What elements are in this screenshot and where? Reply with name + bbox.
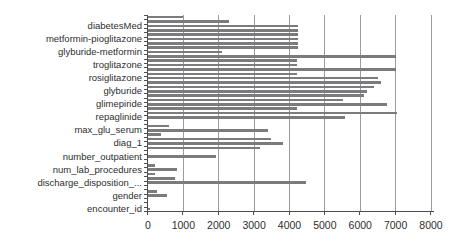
bar [148,59,297,62]
y-axis-line [147,15,148,211]
y-axis-tick [144,181,147,182]
y-axis-tick [144,133,147,134]
x-axis-tick [253,212,254,215]
y-axis-tick [144,24,147,25]
y-axis-tick [144,89,147,90]
y-axis-tick [144,102,147,103]
x-axis-tick [430,212,431,215]
bar [148,208,150,211]
y-axis-tick [144,167,147,168]
x-axis-tick [395,212,396,215]
x-tick-label: 0 [145,219,151,231]
y-axis-tick [144,85,147,86]
x-tick-label: 1000 [172,219,195,231]
y-axis-tick [144,120,147,121]
x-tick-label: 2000 [207,219,230,231]
bar [148,20,229,23]
y-category-label: number_outpatient [0,152,142,162]
y-axis-tick [144,198,147,199]
y-axis-tick [144,146,147,147]
y-axis-tick [144,115,147,116]
bar [148,51,222,54]
x-tick-label: 4000 [278,219,301,231]
y-axis-tick [144,98,147,99]
y-category-label: repaglinide [0,112,142,122]
y-axis-tick [144,76,147,77]
y-axis-tick [144,137,147,138]
y-axis-tick [144,80,147,81]
bar [148,55,396,58]
y-axis-tick [144,207,147,208]
y-axis-tick [144,154,147,155]
y-axis-tick [144,93,147,94]
bar [148,29,298,32]
bar [148,64,297,67]
x-axis-tick [324,212,325,215]
y-category-label: max_glu_serum [0,125,142,135]
bar [148,46,298,49]
bar [148,164,155,167]
y-axis-tick [144,159,147,160]
y-axis-tick [144,67,147,68]
bar [148,77,378,80]
y-axis-tick [144,45,147,46]
y-category-label: diabetesMed [0,21,142,31]
y-category-label: glimepiride [0,99,142,109]
y-axis-tick [144,194,147,195]
bar [148,16,183,19]
y-axis-tick [144,202,147,203]
y-axis-tick [144,32,147,33]
x-tick-label: 3000 [242,219,265,231]
y-axis-tick [144,19,147,20]
y-category-label: diag_1 [0,138,142,148]
y-category-label: glyburide [0,86,142,96]
bar [148,73,297,76]
bar [148,94,364,97]
y-axis-tick [144,141,147,142]
bar [148,68,396,71]
bar [148,103,387,106]
bar [148,125,169,128]
bar [148,99,343,102]
bar [148,177,175,180]
bar [148,190,157,193]
bar [148,112,397,115]
x-axis-tick [218,212,219,215]
y-axis-tick [144,28,147,29]
y-axis-tick [144,15,147,16]
y-category-label: rosiglitazone [0,73,142,83]
y-axis-tick [144,54,147,55]
y-category-label: num_lab_procedures [0,165,142,175]
bar-chart: 010002000300040005000600070008000diabete… [0,0,455,246]
y-category-label: troglitazone [0,60,142,70]
bar [148,25,298,28]
y-axis-tick [144,124,147,125]
y-axis-tick [144,72,147,73]
x-axis-tick [289,212,290,215]
y-axis-tick [144,189,147,190]
y-axis-tick [144,185,147,186]
bar [148,133,161,136]
x-axis-line [147,211,434,212]
y-axis-tick [144,59,147,60]
y-axis-tick [144,63,147,64]
x-axis-tick [147,212,148,215]
y-category-label: encounter_id [0,204,142,214]
bar [148,33,298,36]
bar [148,155,216,158]
bar [148,173,155,176]
bar [148,147,260,150]
y-category-label: metformin-pioglitazone [0,34,142,44]
bar [148,142,283,145]
x-axis-tick [359,212,360,215]
y-axis-tick [144,41,147,42]
y-axis-tick [144,172,147,173]
plot-area [148,15,431,211]
x-tick-label: 7000 [384,219,407,231]
bar [148,38,298,41]
bar [148,42,298,45]
bar [148,138,271,141]
y-axis-tick [144,37,147,38]
bar [148,90,367,93]
gridline [431,15,432,211]
